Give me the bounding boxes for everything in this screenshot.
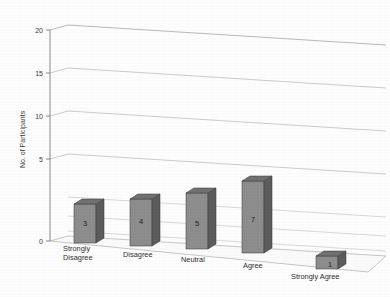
gridline-floor-a — [68, 197, 386, 217]
bar-value-label: 4 — [139, 217, 143, 226]
bar-value-label: 7 — [251, 215, 255, 224]
y-tick-label-0: 0 — [39, 238, 43, 245]
cat-label-strongly-disagree-line2: Disagree — [63, 253, 93, 262]
y-axis: 20 15 10 5 0 — [35, 27, 50, 245]
bar-strongly-agree[interactable]: 1 — [316, 251, 346, 269]
y-axis-title: No. of Participants — [19, 110, 27, 168]
y-tick-label-10: 10 — [35, 113, 43, 120]
cat-label-neutral: Neutral — [181, 255, 205, 264]
y-tick-label-5: 5 — [39, 156, 43, 163]
gridline-5 — [50, 154, 386, 174]
bar-side-face — [152, 194, 160, 246]
bar-value-label: 3 — [83, 219, 87, 228]
bar-value-label: 5 — [195, 219, 199, 228]
bar-chart: 20 15 10 5 0 No. of Participants 3 4 — [0, 0, 390, 297]
cat-label-agree: Agree — [243, 261, 263, 270]
y-tick-label-20: 20 — [35, 27, 43, 34]
cat-label-strongly-disagree-line1: Strongly — [63, 244, 90, 253]
bar-side-face — [208, 188, 216, 249]
bar-disagree[interactable]: 4 — [130, 194, 160, 246]
y-axis-title-text: No. of Participants — [19, 110, 27, 168]
chart-canvas: 20 15 10 5 0 No. of Participants 3 4 — [0, 0, 390, 297]
gridline-15 — [50, 68, 386, 88]
gridline-10 — [50, 111, 386, 131]
gridline-floor-b — [68, 216, 386, 236]
bar-side-face — [264, 176, 272, 253]
cat-label-disagree: Disagree — [123, 250, 153, 259]
bar-value-label: 1 — [328, 260, 332, 269]
bar-agree[interactable]: 7 — [242, 176, 272, 253]
bar-neutral[interactable]: 5 — [186, 188, 216, 249]
bar-side-face — [96, 199, 104, 243]
y-tick-label-15: 15 — [35, 70, 43, 77]
bar-strongly-disagree[interactable]: 3 — [74, 199, 104, 243]
cat-label-strongly-agree: Strongly Agree — [291, 272, 339, 281]
gridline-20 — [50, 25, 386, 45]
